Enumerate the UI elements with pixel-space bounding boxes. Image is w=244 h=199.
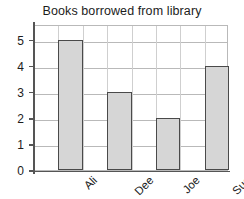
y-tick-mark-1: [29, 144, 34, 145]
bar-ali: [58, 40, 82, 170]
chart-title: Books borrowed from library: [0, 4, 244, 18]
y-tick-label-4: 4: [0, 61, 24, 73]
chart-screenshot: Books borrowed from library 012345 AliDe…: [0, 0, 244, 199]
y-tick-mark-2: [29, 118, 34, 119]
x-axis-line: [29, 171, 230, 173]
x-tick-label-sue: Sue: [230, 174, 244, 197]
y-axis-line: [33, 22, 35, 174]
gridline-x-4: [132, 26, 133, 170]
gridline-x-6: [180, 26, 181, 170]
x-tick-label-ali: Ali: [81, 174, 99, 192]
y-tick-label-3: 3: [0, 87, 24, 99]
y-tick-mark-5: [29, 40, 34, 41]
y-tick-mark-4: [29, 66, 34, 67]
x-tick-label-dee: Dee: [132, 174, 155, 197]
x-tick-label-joe: Joe: [180, 174, 202, 196]
bar-dee: [107, 92, 131, 170]
y-tick-label-0: 0: [0, 165, 24, 177]
y-tick-label-1: 1: [0, 139, 24, 151]
gridline-x-2: [83, 26, 84, 170]
y-tick-mark-0: [29, 170, 34, 171]
y-tick-mark-3: [29, 92, 34, 93]
y-tick-label-5: 5: [0, 35, 24, 47]
bar-joe: [156, 118, 180, 170]
bar-sue: [205, 66, 229, 170]
y-tick-label-2: 2: [0, 113, 24, 125]
plot-area: [33, 25, 228, 171]
